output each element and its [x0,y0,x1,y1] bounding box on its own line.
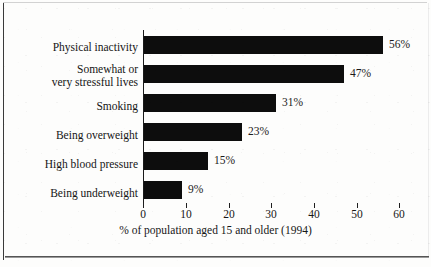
bar-value-1: 47% [350,64,371,82]
bar-being-underweight [144,181,182,199]
bar-row: 47% [144,65,349,83]
x-tick-label-40: 40 [299,208,329,221]
bar-row: 9% [144,181,204,199]
bar-value-0: 56% [389,35,410,53]
x-tick-label-10: 10 [171,208,201,221]
bar-value-5: 9% [188,180,203,198]
category-label-0: Physical inactivity [8,41,138,54]
x-tick-label-30: 30 [256,208,286,221]
bar-row: 15% [144,152,219,170]
bar-chart-plot-area: Physical inactivity Somewhat or very str… [0,0,431,267]
category-label-4: High blood pressure [8,158,138,171]
bar-physical-inactivity [144,36,383,54]
category-label-2: Smoking [8,100,138,113]
category-label-3: Being overweight [8,129,138,142]
figure-container: Physical inactivity Somewhat or very str… [0,0,431,267]
category-label-1: Somewhat or very stressful lives [8,63,138,88]
bar-being-overweight [144,123,242,141]
x-tick-label-20: 20 [214,208,244,221]
category-label-5: Being underweight [8,187,138,200]
x-tick-label-50: 50 [342,208,372,221]
bar-value-4: 15% [214,151,235,169]
x-axis-caption: % of population aged 15 and older (1994) [0,224,431,236]
bar-row: 23% [144,123,249,141]
x-tick-label-0: 0 [128,208,158,221]
bar-row: 31% [144,94,284,112]
bar-high-blood-pressure [144,152,208,170]
bar-row: 56% [144,36,384,54]
bar-value-3: 23% [248,122,269,140]
bar-value-2: 31% [282,93,303,111]
bar-stressful-lives [144,65,344,83]
x-tick-label-60: 60 [384,208,414,221]
bar-smoking [144,94,276,112]
